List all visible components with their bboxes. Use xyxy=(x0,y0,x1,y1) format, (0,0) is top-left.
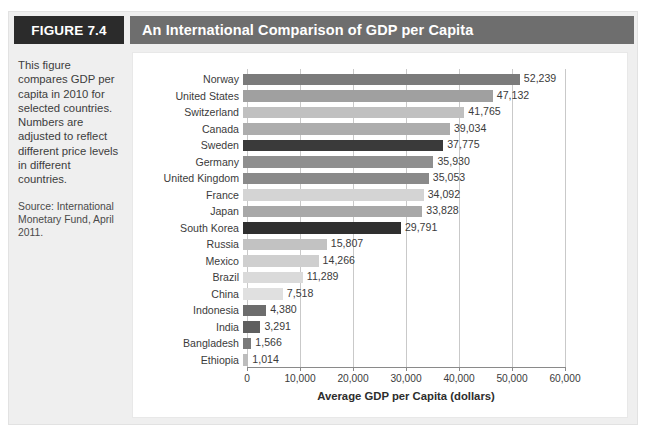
bar xyxy=(243,90,493,102)
bar-row: France34,092 xyxy=(133,187,629,204)
bar-value-label: 52,239 xyxy=(520,72,556,84)
bar-row: Japan33,828 xyxy=(133,203,629,220)
category-label: Canada xyxy=(133,123,243,135)
bar xyxy=(243,305,266,317)
bar-track: 1,014 xyxy=(243,352,561,369)
figure-title: An International Comparison of GDP per C… xyxy=(130,16,634,44)
x-tick xyxy=(300,367,301,371)
category-label: United States xyxy=(133,90,243,102)
bar-value-label: 47,132 xyxy=(493,89,529,101)
bar-track: 15,807 xyxy=(243,236,561,253)
category-label: Brazil xyxy=(133,271,243,283)
bar-value-label: 37,775 xyxy=(443,138,479,150)
bar-track: 52,239 xyxy=(243,71,561,88)
category-label: France xyxy=(133,189,243,201)
bar-row: Ethiopia1,014 xyxy=(133,352,629,369)
category-label: Switzerland xyxy=(133,106,243,118)
figure-header: FIGURE 7.4 An International Comparison o… xyxy=(14,16,634,44)
bar xyxy=(243,272,303,284)
caption-text: This figure compares GDP per capita in 2… xyxy=(18,58,122,187)
category-label: Norway xyxy=(133,73,243,85)
bar-value-label: 1,566 xyxy=(251,336,282,348)
bar-value-label: 41,765 xyxy=(464,105,500,117)
bar-row: Canada39,034 xyxy=(133,121,629,138)
bar xyxy=(243,140,443,152)
x-tick-label: 20,000 xyxy=(337,373,368,384)
chart-card: Norway52,239United States47,132Switzerla… xyxy=(132,52,628,418)
category-label: Germany xyxy=(133,156,243,168)
category-label: United Kingdom xyxy=(133,172,243,184)
bar-value-label: 4,380 xyxy=(266,303,297,315)
bar xyxy=(243,107,464,119)
bar-value-label: 1,014 xyxy=(248,353,279,365)
x-tick-label: 40,000 xyxy=(443,373,474,384)
bar-row: South Korea29,791 xyxy=(133,220,629,237)
bar xyxy=(243,173,429,185)
bar-track: 3,291 xyxy=(243,319,561,336)
category-label: India xyxy=(133,321,243,333)
bar xyxy=(243,321,260,333)
bar-row: Germany35,930 xyxy=(133,154,629,171)
bar xyxy=(243,156,433,168)
bar xyxy=(243,206,422,218)
bar-value-label: 33,828 xyxy=(422,204,458,216)
bar-row: Switzerland41,765 xyxy=(133,104,629,121)
caption-column: This figure compares GDP per capita in 2… xyxy=(18,58,122,239)
bar-value-label: 11,289 xyxy=(303,270,339,282)
plot-area: Norway52,239United States47,132Switzerla… xyxy=(133,53,629,419)
x-tick xyxy=(512,367,513,371)
bar-track: 1,566 xyxy=(243,335,561,352)
bar-row: India3,291 xyxy=(133,319,629,336)
bar xyxy=(243,288,283,300)
x-axis-title: Average GDP per Capita (dollars) xyxy=(247,390,565,402)
bar-value-label: 34,092 xyxy=(424,188,460,200)
x-tick-label: 30,000 xyxy=(390,373,421,384)
bar-row: Bangladesh1,566 xyxy=(133,335,629,352)
bar-track: 14,266 xyxy=(243,253,561,270)
x-tick xyxy=(353,367,354,371)
bar-track: 34,092 xyxy=(243,187,561,204)
bar xyxy=(243,222,401,234)
x-tick-label: 0 xyxy=(244,373,250,384)
bar-track: 29,791 xyxy=(243,220,561,237)
bar xyxy=(243,239,327,251)
bar xyxy=(243,74,520,86)
bar xyxy=(243,255,319,267)
category-label: Russia xyxy=(133,238,243,250)
x-tick xyxy=(247,367,248,371)
bar-track: 7,518 xyxy=(243,286,561,303)
caption-source: Source: International Monetary Fund, Apr… xyxy=(18,200,122,240)
bar-value-label: 39,034 xyxy=(450,122,486,134)
bar-track: 37,775 xyxy=(243,137,561,154)
category-label: Sweden xyxy=(133,139,243,151)
bar-track: 33,828 xyxy=(243,203,561,220)
bar xyxy=(243,123,450,135)
category-label: China xyxy=(133,288,243,300)
bar-row: Indonesia4,380 xyxy=(133,302,629,319)
bar-track: 47,132 xyxy=(243,88,561,105)
bar-track: 35,930 xyxy=(243,154,561,171)
x-tick xyxy=(406,367,407,371)
bar-value-label: 15,807 xyxy=(327,237,363,249)
x-tick xyxy=(459,367,460,371)
bar-value-label: 3,291 xyxy=(260,320,291,332)
bar-value-label: 7,518 xyxy=(283,287,314,299)
x-tick-label: 50,000 xyxy=(496,373,527,384)
bar-track: 11,289 xyxy=(243,269,561,286)
bar-value-label: 35,930 xyxy=(433,155,469,167)
bar-track: 39,034 xyxy=(243,121,561,138)
category-label: South Korea xyxy=(133,222,243,234)
bar-row: Mexico14,266 xyxy=(133,253,629,270)
category-label: Mexico xyxy=(133,255,243,267)
x-tick-label: 10,000 xyxy=(284,373,315,384)
bar-row: United States47,132 xyxy=(133,88,629,105)
figure-number-tag: FIGURE 7.4 xyxy=(14,16,124,44)
bar-row: China7,518 xyxy=(133,286,629,303)
bar-track: 41,765 xyxy=(243,104,561,121)
bar-row: Sweden37,775 xyxy=(133,137,629,154)
x-tick-label: 60,000 xyxy=(549,373,580,384)
bar-row: United Kingdom35,053 xyxy=(133,170,629,187)
category-label: Japan xyxy=(133,205,243,217)
bar-value-label: 35,053 xyxy=(429,171,465,183)
bar xyxy=(243,338,251,350)
